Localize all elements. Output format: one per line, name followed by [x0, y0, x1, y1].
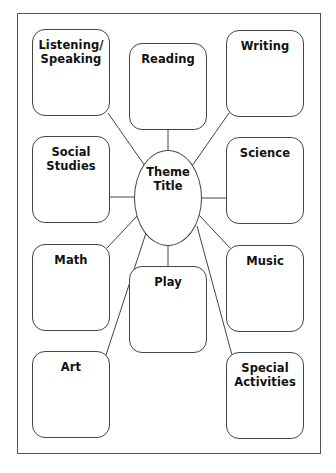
theme-title-ellipse: Theme Title — [134, 150, 202, 246]
connector-math — [107, 215, 138, 248]
box-play: Play — [129, 266, 207, 353]
box-label: Science — [227, 146, 303, 160]
box-label: Math — [33, 253, 109, 267]
box-special-activities: Special Activities — [226, 352, 304, 439]
box-label: Listening/ Speaking — [33, 38, 109, 66]
box-social-studies: Social Studies — [32, 136, 110, 223]
box-label: Reading — [130, 52, 206, 66]
box-label: Writing — [227, 39, 303, 53]
box-reading: Reading — [129, 43, 207, 130]
box-label: Music — [227, 254, 303, 268]
box-label: Play — [130, 275, 206, 289]
box-listening-speaking: Listening/ Speaking — [32, 29, 110, 116]
connector-music — [199, 215, 230, 248]
box-math: Math — [32, 244, 110, 331]
box-writing: Writing — [226, 30, 304, 117]
box-label: Social Studies — [33, 145, 109, 173]
theme-title-label: Theme Title — [135, 165, 201, 193]
box-label: Special Activities — [227, 361, 303, 389]
box-music: Music — [226, 245, 304, 332]
box-science: Science — [226, 137, 304, 224]
box-label: Art — [33, 360, 109, 374]
box-art: Art — [32, 351, 110, 438]
